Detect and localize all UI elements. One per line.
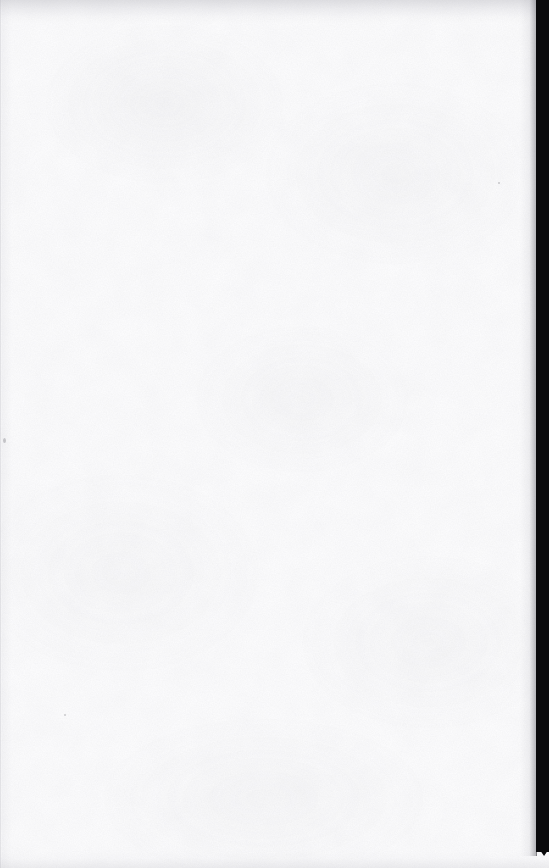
paper-surface: [0, 0, 549, 868]
scanned-page: [0, 0, 549, 868]
